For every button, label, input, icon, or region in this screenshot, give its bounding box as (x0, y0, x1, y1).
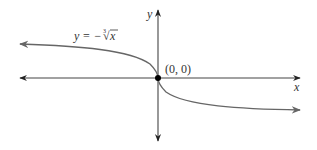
svg-text:y = −: y = − (73, 29, 102, 43)
function-label-radical: √ (103, 29, 110, 43)
cube-root-graph: x y (0, 0) y = − 3 √ x (0, 0, 317, 150)
origin-point-label: (0, 0) (165, 62, 191, 76)
origin-point (155, 75, 161, 81)
x-axis-label: x (293, 80, 300, 94)
function-label-lhs: y = − (73, 29, 102, 43)
y-axis-label: y (146, 7, 153, 21)
function-label: y = − 3 √ x (73, 28, 118, 43)
function-label-radicand: x (109, 29, 116, 43)
